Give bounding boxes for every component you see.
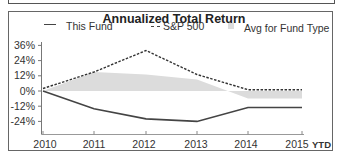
plot-area <box>0 0 348 161</box>
